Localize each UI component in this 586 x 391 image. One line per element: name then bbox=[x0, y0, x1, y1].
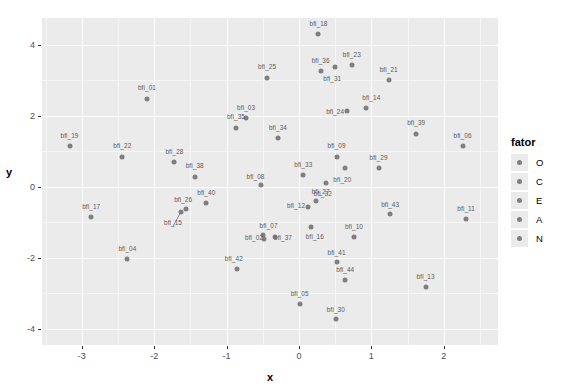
data-point[interactable] bbox=[144, 97, 149, 102]
data-point[interactable] bbox=[67, 143, 72, 148]
gridline-horizontal-minor bbox=[42, 80, 498, 81]
data-point[interactable] bbox=[324, 180, 329, 185]
data-point[interactable] bbox=[363, 105, 368, 110]
gridline-vertical-minor bbox=[118, 18, 119, 345]
data-point[interactable] bbox=[334, 154, 339, 159]
legend-key-swatch bbox=[511, 192, 528, 209]
data-point[interactable] bbox=[351, 234, 356, 239]
data-point-label: bfi_27 bbox=[312, 187, 330, 194]
data-point[interactable] bbox=[388, 212, 393, 217]
data-point[interactable] bbox=[301, 173, 306, 178]
data-point-label: bfi_15 bbox=[164, 219, 182, 226]
data-point-label: bfi_34 bbox=[269, 124, 287, 131]
scatter-plot: bfi_18bfi_23bfi_36bfi_31bfi_25bfi_21bfi_… bbox=[0, 0, 586, 391]
data-point-label: bfi_08 bbox=[247, 173, 265, 180]
data-point-label: bfi_03 bbox=[237, 103, 255, 110]
gridline-horizontal bbox=[42, 329, 498, 330]
legend-entry-label: C bbox=[536, 176, 543, 187]
gridline-horizontal bbox=[42, 187, 498, 188]
data-point-label: bfi_42 bbox=[225, 254, 243, 261]
data-point[interactable] bbox=[314, 199, 319, 204]
gridline-vertical-minor bbox=[480, 18, 481, 345]
legend-dot-icon bbox=[517, 236, 522, 241]
data-point-label: bfi_06 bbox=[454, 131, 472, 138]
x-axis-tick-label: 2 bbox=[441, 351, 446, 361]
gridline-horizontal bbox=[42, 258, 498, 259]
data-point[interactable] bbox=[265, 75, 270, 80]
x-axis-tick-label: 1 bbox=[369, 351, 374, 361]
legend-dot-icon bbox=[517, 217, 522, 222]
x-axis-title: x bbox=[42, 371, 498, 383]
legend-entry-n[interactable]: N bbox=[511, 229, 583, 248]
data-point-label: bfi_36 bbox=[312, 56, 330, 63]
legend: fator OCEAN bbox=[511, 136, 583, 248]
data-point[interactable] bbox=[275, 136, 280, 141]
gridline-vertical bbox=[82, 18, 83, 345]
gridline-vertical bbox=[371, 18, 372, 345]
data-point[interactable] bbox=[125, 256, 130, 261]
data-point[interactable] bbox=[386, 78, 391, 83]
data-point[interactable] bbox=[258, 183, 263, 188]
y-axis-tick-label: -4 bbox=[10, 324, 35, 334]
data-point[interactable] bbox=[423, 284, 428, 289]
data-point-label: bfi_12 bbox=[287, 201, 305, 208]
data-point[interactable] bbox=[343, 277, 348, 282]
gridline-vertical bbox=[227, 18, 228, 345]
data-point[interactable] bbox=[192, 174, 197, 179]
data-point[interactable] bbox=[172, 160, 177, 165]
data-point-label: bfi_22 bbox=[113, 142, 131, 149]
gridline-horizontal-minor bbox=[42, 151, 498, 152]
y-axis-tick-label: 2 bbox=[10, 111, 35, 121]
legend-dot-icon bbox=[517, 160, 522, 165]
data-point[interactable] bbox=[460, 143, 465, 148]
gridline-vertical-minor bbox=[46, 18, 47, 345]
data-point[interactable] bbox=[306, 205, 311, 210]
legend-entry-a[interactable]: A bbox=[511, 210, 583, 229]
legend-entry-label: O bbox=[536, 157, 543, 168]
data-point[interactable] bbox=[297, 302, 302, 307]
data-point-label: bfi_33 bbox=[294, 160, 312, 167]
data-point-label: bfi_40 bbox=[197, 189, 215, 196]
data-point[interactable] bbox=[234, 266, 239, 271]
data-point-label: bfi_05 bbox=[291, 290, 309, 297]
data-point[interactable] bbox=[89, 214, 94, 219]
x-axis-tick-label: -2 bbox=[150, 351, 158, 361]
data-point[interactable] bbox=[464, 216, 469, 221]
plot-panel: bfi_18bfi_23bfi_36bfi_31bfi_25bfi_21bfi_… bbox=[42, 18, 498, 345]
legend-entry-label: E bbox=[536, 195, 542, 206]
data-point[interactable] bbox=[204, 201, 209, 206]
data-point[interactable] bbox=[316, 31, 321, 36]
legend-entry-e[interactable]: E bbox=[511, 191, 583, 210]
data-point[interactable] bbox=[318, 69, 323, 74]
legend-title: fator bbox=[511, 136, 583, 148]
data-point[interactable] bbox=[414, 131, 419, 136]
data-point-label: bfi_24 bbox=[326, 108, 344, 115]
legend-dot-icon bbox=[517, 198, 522, 203]
data-point[interactable] bbox=[233, 125, 238, 130]
data-point[interactable] bbox=[178, 209, 183, 214]
x-axis-tick-label: -1 bbox=[223, 351, 231, 361]
data-point-label: bfi_01 bbox=[138, 84, 156, 91]
gridline-horizontal bbox=[42, 45, 498, 46]
data-point[interactable] bbox=[376, 166, 381, 171]
data-point[interactable] bbox=[349, 63, 354, 68]
data-point[interactable] bbox=[342, 165, 347, 170]
data-point[interactable] bbox=[333, 65, 338, 70]
data-point[interactable] bbox=[333, 317, 338, 322]
y-axis-title: y bbox=[6, 166, 12, 178]
data-point-label: bfi_23 bbox=[343, 50, 361, 57]
data-point[interactable] bbox=[309, 224, 314, 229]
legend-dot-icon bbox=[517, 179, 522, 184]
data-point-label: bfi_30 bbox=[327, 305, 345, 312]
legend-entry-o[interactable]: O bbox=[511, 153, 583, 172]
y-axis-tick-mark bbox=[38, 116, 41, 117]
data-point[interactable] bbox=[344, 109, 349, 114]
data-point[interactable] bbox=[334, 260, 339, 265]
legend-key-swatch bbox=[511, 173, 528, 190]
data-point-label: bfi_18 bbox=[309, 19, 327, 26]
data-point[interactable] bbox=[120, 154, 125, 159]
data-point[interactable] bbox=[184, 206, 189, 211]
y-axis-tick-mark bbox=[38, 45, 41, 46]
legend-entry-c[interactable]: C bbox=[511, 172, 583, 191]
gridline-vertical bbox=[154, 18, 155, 345]
